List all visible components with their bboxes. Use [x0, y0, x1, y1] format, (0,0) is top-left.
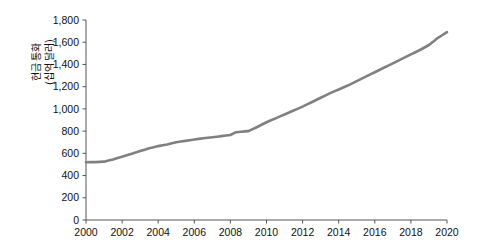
x-tick-label: 2012 — [291, 226, 315, 238]
x-tick-label: 2006 — [183, 226, 207, 238]
y-tick-label: 800 — [61, 125, 79, 137]
y-tick-label: 1,000 — [53, 103, 79, 115]
y-axis-title-line: 현금 통화 — [31, 43, 42, 82]
y-tick-label: 400 — [61, 169, 79, 181]
y-tick-label: 200 — [61, 191, 79, 203]
x-tick-label: 2018 — [399, 226, 423, 238]
x-tick-label: 2020 — [435, 226, 459, 238]
x-tick-label: 2014 — [327, 226, 351, 238]
y-tick-label: 600 — [61, 147, 79, 159]
x-tick-label: 2000 — [74, 226, 98, 238]
y-axis-title: 현금 통화(십억 달러) — [31, 39, 55, 84]
y-tick-label: 0 — [73, 214, 79, 226]
line-chart: 02004006008001,0001,2001,4001,6001,800 2… — [0, 0, 486, 246]
x-tick-label: 2004 — [147, 226, 171, 238]
x-tick-label: 2010 — [255, 226, 279, 238]
x-tick-label: 2016 — [363, 226, 387, 238]
y-tick-label: 1,200 — [53, 80, 79, 92]
x-axis: 2000200220042006200820102012201420162018… — [74, 220, 459, 238]
data-series-line — [86, 32, 447, 162]
y-axis-title-line: (십억 달러) — [44, 39, 55, 84]
y-tick-label: 1,400 — [53, 58, 79, 70]
y-tick-label: 1,600 — [53, 36, 79, 48]
x-tick-label: 2008 — [219, 226, 243, 238]
y-tick-label: 1,800 — [53, 14, 79, 26]
y-axis: 02004006008001,0001,2001,4001,6001,800 — [53, 14, 86, 226]
chart-page: 02004006008001,0001,2001,4001,6001,800 2… — [0, 0, 486, 246]
x-tick-label: 2002 — [110, 226, 134, 238]
